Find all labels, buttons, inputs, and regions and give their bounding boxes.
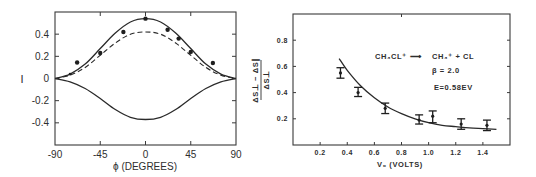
left-y-tick-label: 0: [43, 73, 49, 84]
left-data-point: [165, 28, 169, 32]
right-chart: 0.20.40.60.81.01.21.40.80.60.40.2 ΔS⊥ − …: [251, 14, 510, 169]
right-theory-curve: [339, 59, 496, 130]
left-y-axis-label: I: [20, 73, 23, 85]
left-x-tick-label: 90: [230, 149, 242, 160]
left-data-point: [98, 51, 102, 55]
reaction-products: CH₃⁺ + CL: [432, 52, 474, 61]
right-x-tick-label: 0.4: [342, 149, 353, 156]
data-marker: [339, 71, 342, 74]
left-x-tick-label: 0: [143, 149, 149, 160]
reaction-arrow: ⟶: [410, 52, 422, 61]
left-x-tick-label: -90: [48, 149, 63, 160]
right-x-tick-label: 1.0: [423, 149, 434, 156]
left-data-point: [189, 50, 193, 54]
left-data-point: [69, 73, 72, 76]
right-y-label-numerator: ΔS⊥ − ΔS∥: [251, 57, 260, 103]
right-data-point: [336, 68, 344, 78]
right-x-tick-label: 0.8: [396, 149, 407, 156]
right-data-point: [429, 111, 437, 123]
figure: -90-45045900.40.20-0.2-0.4 I ϕ (DEGREES)…: [0, 0, 536, 177]
left-y-tick-label: 0.2: [35, 51, 49, 62]
right-y-tick-label: 0.8: [277, 37, 288, 44]
left-data-point: [211, 61, 215, 65]
right-x-axis-label: V₀ (VOLTS): [377, 160, 423, 169]
data-marker: [460, 122, 463, 125]
beta-annotation: β = 2.0: [432, 66, 460, 75]
data-marker: [485, 124, 488, 127]
left-data-point: [143, 16, 147, 20]
right-y-tick-label: 0.4: [277, 89, 288, 96]
right-y-tick-label: 0.6: [277, 63, 288, 70]
left-data-point: [176, 36, 180, 40]
reaction-reactant: CH₃CL⁺: [375, 52, 407, 61]
left-data-point: [75, 60, 79, 64]
left-x-tick-label: -45: [93, 149, 108, 160]
data-marker: [357, 91, 360, 94]
left-dashed-curve: [55, 32, 236, 79]
left-data-point: [121, 30, 125, 34]
data-marker: [431, 115, 434, 118]
right-y-tick-label: 0.2: [277, 115, 288, 122]
data-marker: [418, 119, 421, 122]
right-plot-frame: [293, 14, 510, 145]
left-y-tick-label: 0.4: [35, 29, 49, 40]
right-data-point: [354, 87, 362, 96]
left-lower-curve: [55, 79, 236, 120]
left-x-axis-label: ϕ (DEGREES): [113, 161, 177, 172]
right-data-point: [381, 103, 389, 113]
left-chart: -90-45045900.40.20-0.2-0.4 I ϕ (DEGREES): [20, 12, 242, 172]
left-y-tick-label: -0.2: [32, 95, 50, 106]
left-y-tick-label: -0.4: [32, 117, 50, 128]
energy-annotation: E=0.58EV: [434, 83, 473, 92]
right-y-axis-label: ΔS⊥ − ΔS∥ ΔS⊥: [251, 57, 271, 103]
left-x-tick-label: 45: [185, 149, 197, 160]
right-x-tick-label: 0.2: [315, 149, 326, 156]
right-x-tick-label: 0.6: [369, 149, 380, 156]
right-x-tick-label: 1.4: [477, 149, 488, 156]
right-y-label-denominator: ΔS⊥: [262, 70, 271, 89]
right-x-tick-label: 1.2: [450, 149, 461, 156]
data-marker: [384, 107, 387, 110]
